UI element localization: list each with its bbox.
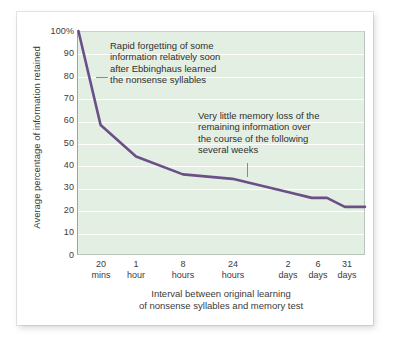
- forgetting-curve-figure: 100% 90 80 70 60 50 40 30 20 10 0 20 min…: [0, 0, 395, 347]
- chart-plot-area-wrapper: 100% 90 80 70 60 50 40 30 20 10 0 20 min…: [0, 0, 395, 347]
- curve-svg: [0, 0, 395, 347]
- forgetting-curve-line: [78, 31, 365, 207]
